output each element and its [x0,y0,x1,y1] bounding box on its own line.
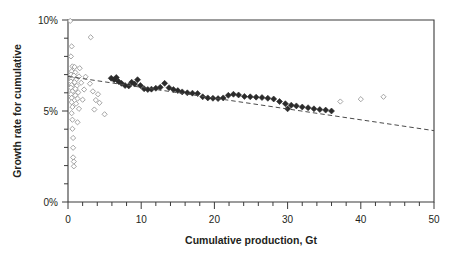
data-point-filled [323,107,329,113]
data-point-open [92,107,97,112]
x-axis-ticks [68,202,434,209]
data-point-filled [253,94,259,100]
data-point-open [79,80,84,85]
data-point-filled [305,105,311,111]
y-tick-label: 10% [38,15,58,26]
data-point-filled [225,92,231,98]
y-tick-label: 5% [44,106,59,117]
data-point-filled [230,91,236,97]
x-tick-label: 0 [65,214,71,225]
data-point-open [71,145,76,150]
data-point-filled [259,95,265,101]
data-point-open [358,97,363,102]
data-point-filled [293,103,299,109]
x-axis-title: Cumulative production, Gt [185,234,317,246]
axis-frame [68,20,434,202]
data-point-open [90,89,95,94]
y-axis-title: Growth rate for cumulative [11,44,23,178]
data-point-open [102,112,107,117]
x-axis-tick-labels: 01020304050 [65,214,440,225]
data-point-open [76,106,81,111]
trend-line [68,76,434,130]
data-point-filled [236,92,242,98]
y-axis-ticks [62,20,68,202]
data-point-open [87,81,92,86]
plot-frame [68,20,434,202]
data-point-filled [265,95,271,101]
x-tick-label: 30 [282,214,294,225]
x-tick-label: 50 [428,214,440,225]
data-point-filled [317,107,323,113]
data-point-open [75,120,80,125]
data-point-filled [162,80,168,86]
data-point-open [70,126,75,131]
data-point-open [71,135,76,140]
data-point-open [70,104,75,109]
data-point-filled [271,96,277,102]
x-tick-label: 40 [355,214,367,225]
data-point-filled [277,99,283,105]
y-axis-tick-labels: 0%5%10% [38,15,58,208]
data-point-filled [241,93,247,99]
data-point-open [80,97,85,102]
x-tick-label: 20 [209,214,221,225]
data-point-open [69,111,74,116]
y-tick-label: 0% [44,197,59,208]
data-point-open [95,92,100,97]
data-point-filled [299,104,305,110]
scatter-chart: 0%5%10% 01020304050 Cumulative productio… [0,0,464,256]
data-point-open [381,94,386,99]
data-point-open [88,35,93,40]
data-point-open [69,44,74,49]
data-point-open [82,87,87,92]
data-point-filled [247,94,253,100]
data-point-open [77,66,82,71]
data-point-open [68,54,73,59]
data-point-filled [329,108,335,114]
data-point-open [70,117,75,122]
data-point-open [71,164,76,169]
data-point-open [338,99,343,104]
series-filled-markers [108,75,334,114]
data-point-filled [311,106,317,112]
x-tick-label: 10 [136,214,148,225]
